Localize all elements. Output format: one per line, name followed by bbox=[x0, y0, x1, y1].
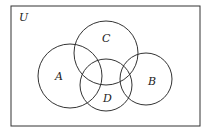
set-d-label: D bbox=[102, 92, 112, 105]
set-c-label: C bbox=[102, 32, 111, 45]
venn-diagram: U A C D B bbox=[0, 0, 208, 134]
universe-label: U bbox=[19, 11, 29, 24]
set-b-circle bbox=[120, 53, 172, 105]
set-c-circle bbox=[74, 21, 138, 85]
set-a-label: A bbox=[54, 70, 63, 83]
set-b-label: B bbox=[147, 75, 156, 88]
set-a-circle bbox=[38, 44, 102, 108]
